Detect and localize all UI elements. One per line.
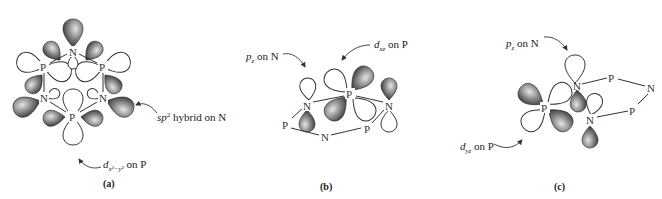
atom-n-top: N [69,46,77,58]
orbital-diagram: N P P N N P sp2 hybrid on N dx²−y² on P … [0,0,662,199]
caption-c: (c) [554,181,565,193]
atom-p-left: P [541,102,547,114]
atom-p-bottom: P [69,111,75,123]
atom-p-center: P [346,88,352,100]
atom-p-lower-right: P [629,105,635,117]
atom-p-right: P [99,61,105,73]
arrow-dxz [342,45,370,60]
atom-n-far-right: N [647,82,655,94]
arrow-sp2 [136,104,157,113]
atom-p-upper-right: P [608,72,614,84]
atom-n-left: N [40,92,48,104]
atom-n-bottom: N [321,131,329,143]
label-dx2y2: dx²−y² on P [103,158,146,173]
label-pz-on-n-b: pz on N [245,50,279,65]
caption-b: (b) [320,181,332,193]
caption-a: (a) [103,178,115,190]
arrow-dx2y2 [79,159,101,168]
atom-p-left: P [40,61,46,73]
atom-p-lower-left: P [282,119,288,131]
arrow-dyz [494,140,522,147]
panel-b: P N N P N P pz on N dxz on P (b) [245,38,408,193]
arrow-pz-c [544,37,567,50]
label-dyz-on-p: dyz on P [460,140,494,155]
atom-n-top: N [573,80,581,92]
arrow-pz-b [283,54,305,67]
d-x2-y2-lobes [14,50,132,145]
panel-a: N P P N N P sp2 hybrid on N dx²−y² on P … [10,19,226,190]
label-pz-on-n-c: pz on N [505,37,539,52]
panel-c: P N N P N P pz on N dyz on P (c) [460,37,655,193]
atom-n-lower: N [586,114,594,126]
atom-n-right: N [99,92,107,104]
label-dxz-on-p: dxz on P [374,38,408,53]
atom-n-right: N [385,100,393,112]
label-sp2-hybrid: sp2 hybrid on N [157,111,226,123]
atom-n-left: N [303,100,311,112]
atom-p-lower-right: P [364,123,370,135]
